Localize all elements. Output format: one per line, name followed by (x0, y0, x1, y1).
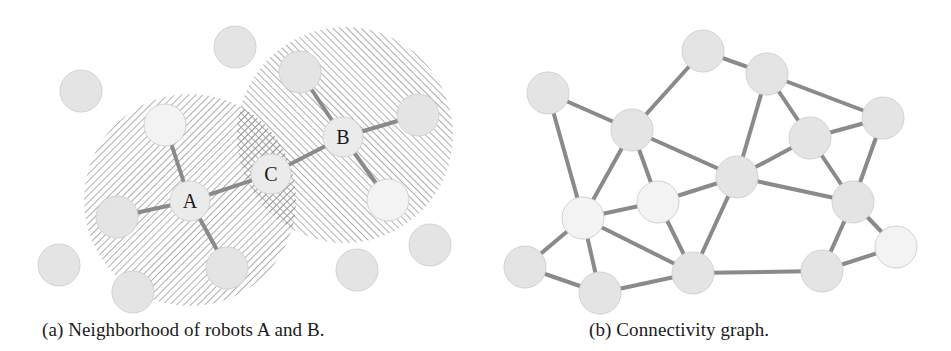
caption-panel-b: (b) Connectivity graph. (589, 319, 769, 341)
figure: ABC (a) Neighborhood of robots A and B. … (0, 0, 951, 351)
graph-node (504, 246, 546, 288)
graph-node (562, 197, 604, 239)
robot-label-b: B (336, 126, 349, 148)
panel-b-connectivity-graph (504, 30, 917, 314)
caption-panel-a: (a) Neighborhood of robots A and B. (42, 319, 325, 341)
panel-b-edges (525, 51, 896, 293)
graph-node (875, 226, 917, 268)
panel-a-neighborhood: ABC (38, 26, 453, 313)
graph-node (611, 109, 653, 151)
robot-node (96, 196, 138, 238)
robot-node (367, 179, 409, 221)
robot-label-c: C (264, 163, 277, 185)
graph-node (789, 117, 831, 159)
panel-b-nodes (504, 30, 917, 314)
graph-node (801, 250, 843, 292)
robot-node (397, 94, 439, 136)
robot-node (60, 70, 102, 112)
graph-node (832, 181, 874, 223)
robot-node (112, 271, 154, 313)
graph-node (672, 252, 714, 294)
graph-node (579, 272, 621, 314)
robot-node (206, 247, 248, 289)
graph-node (682, 30, 724, 72)
robot-node (214, 26, 256, 68)
robot-node (144, 104, 186, 146)
robot-node (38, 244, 80, 286)
graph-node (716, 156, 758, 198)
graph-node (862, 97, 904, 139)
robot-label-a: A (183, 190, 198, 212)
graph-node (746, 53, 788, 95)
graph-node (637, 181, 679, 223)
robot-node (336, 249, 378, 291)
robot-node (279, 51, 321, 93)
graph-node (527, 72, 569, 114)
figure-canvas: ABC (0, 0, 951, 351)
robot-node (409, 224, 451, 266)
